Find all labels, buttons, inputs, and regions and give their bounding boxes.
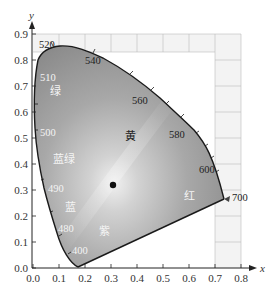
svg-text:紫: 紫 (99, 225, 110, 238)
svg-text:520: 520 (39, 39, 55, 50)
svg-text:480: 480 (58, 223, 74, 234)
svg-text:0.1: 0.1 (14, 236, 28, 248)
svg-text:700: 700 (232, 192, 248, 203)
svg-text:500: 500 (40, 127, 56, 138)
svg-text:0.6: 0.6 (182, 272, 196, 284)
svg-text:0.8: 0.8 (234, 272, 248, 284)
svg-text:0.8: 0.8 (14, 54, 28, 66)
y-axis-label: y (28, 9, 34, 21)
x-axis-label: x (259, 262, 265, 274)
svg-text:红: 红 (184, 190, 195, 203)
svg-text:0.6: 0.6 (14, 106, 28, 118)
svg-text:0.3: 0.3 (104, 272, 118, 284)
svg-text:400: 400 (72, 245, 88, 256)
y-tick-labels: 0.0 0.1 0.2 0.3 0.4 0.5 0.6 0.7 0.8 0.9 (14, 28, 28, 274)
svg-text:0.2: 0.2 (78, 272, 92, 284)
svg-text:黄: 黄 (125, 129, 136, 143)
svg-text:0.0: 0.0 (14, 262, 28, 274)
white-point-marker (110, 182, 116, 188)
svg-text:0.2: 0.2 (14, 210, 28, 222)
svg-text:580: 580 (169, 129, 185, 140)
svg-text:540: 540 (85, 55, 101, 66)
svg-text:蓝: 蓝 (65, 201, 76, 214)
svg-text:510: 510 (40, 72, 56, 83)
svg-text:0.7: 0.7 (14, 80, 28, 92)
svg-text:490: 490 (48, 183, 64, 194)
svg-text:0.5: 0.5 (156, 272, 170, 284)
y-axis-arrow-icon (29, 21, 35, 29)
cie-chromaticity-chart: 0.0 0.1 0.2 0.3 0.4 0.5 0.6 0.7 0.8 0.0 … (0, 0, 277, 295)
svg-text:560: 560 (132, 95, 148, 106)
svg-text:0.0: 0.0 (26, 272, 40, 284)
svg-text:蓝绿: 蓝绿 (53, 152, 75, 166)
svg-text:0.3: 0.3 (14, 184, 28, 196)
svg-text:绿: 绿 (50, 84, 61, 98)
x-axis-arrow-icon (249, 265, 257, 271)
svg-text:0.7: 0.7 (208, 272, 222, 284)
svg-text:600: 600 (199, 164, 215, 175)
svg-text:0.1: 0.1 (52, 272, 66, 284)
svg-text:0.5: 0.5 (14, 132, 28, 144)
x-tick-labels: 0.0 0.1 0.2 0.3 0.4 0.5 0.6 0.7 0.8 (26, 272, 248, 284)
svg-text:0.4: 0.4 (14, 158, 28, 170)
svg-text:0.9: 0.9 (14, 28, 28, 40)
svg-text:0.4: 0.4 (130, 272, 144, 284)
